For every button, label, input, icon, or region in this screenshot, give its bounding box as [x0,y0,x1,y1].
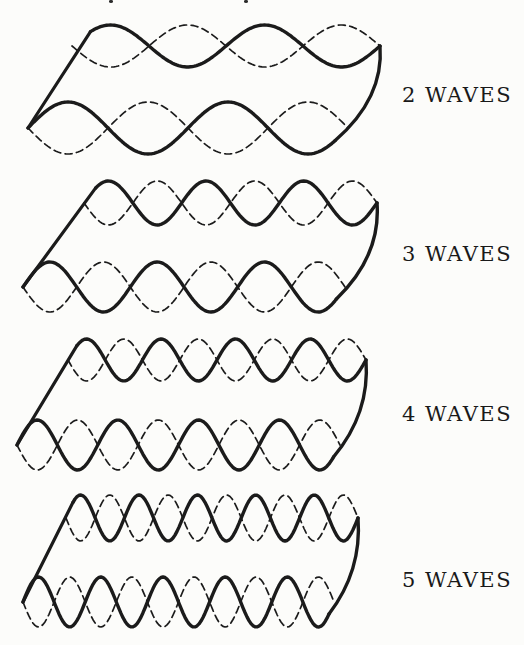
top-wave-solid [73,495,358,541]
bottom-wave-solid [23,577,329,627]
left-edge-line [23,188,96,287]
wave-band-3-waves [23,181,377,312]
left-edge-line [28,32,91,128]
wave-count-label-4: 4 WAVES [394,401,520,427]
top-wave-solid [77,339,366,381]
bottom-wave-solid [17,420,334,470]
top-wave-solid [96,181,377,225]
page-crop-artifact [244,0,248,3]
standing-waves-figure: 2 WAVES 3 WAVES 4 WAVES 5 WAVES [0,0,524,645]
right-edge-line [335,46,380,141]
wave-band-2-waves [28,25,380,154]
wave-band-5-waves [23,495,358,627]
wave-count-label-5: 5 WAVES [394,567,520,593]
wave-count-label-2: 2 WAVES [394,82,520,108]
bottom-wave-solid [23,262,336,312]
wave-count-label-3: 3 WAVES [394,241,520,267]
wave-band-4-waves [17,339,366,470]
page-crop-artifact [109,0,113,3]
top-wave-solid [91,25,381,67]
left-edge-line [17,346,77,445]
